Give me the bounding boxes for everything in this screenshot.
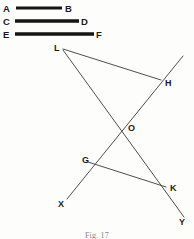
geometry-figure: A B C D E F L H O G K X Y Fig. 17 xyxy=(0,0,194,239)
segment-cd-start-label: C xyxy=(3,16,10,27)
line-l-o-k-y xyxy=(63,50,184,217)
figure-canvas: A B C D E F L H O G K X Y xyxy=(0,0,194,239)
segment-ef-start-label: E xyxy=(3,29,9,40)
point-y-label: Y xyxy=(179,217,185,227)
point-o-label: O xyxy=(128,123,135,133)
point-x-label: X xyxy=(58,199,64,209)
point-l-label: L xyxy=(54,43,60,53)
point-labels-group: L H O G K X Y xyxy=(54,43,185,227)
point-h-label: H xyxy=(165,78,172,88)
segment-cd-end-label: D xyxy=(81,16,88,27)
line-l-h xyxy=(63,49,161,80)
figure-caption: Fig. 17 xyxy=(0,231,194,239)
point-k-label: K xyxy=(170,183,177,193)
segment-ef-end-label: F xyxy=(96,29,102,40)
construction-lines-group xyxy=(63,49,184,217)
point-g-label: G xyxy=(82,155,89,165)
segment-ab-start-label: A xyxy=(3,3,10,14)
segment-ab-end-label: B xyxy=(65,3,72,14)
line-g-k xyxy=(88,162,166,187)
horizontal-segments-group: A B C D E F xyxy=(3,3,102,40)
